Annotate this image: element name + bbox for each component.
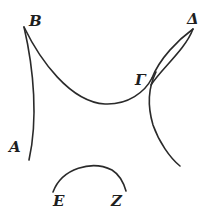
arc-E-Z <box>53 166 126 192</box>
label-Z: Z <box>111 194 122 209</box>
curve-Gamma-Delta-inner <box>151 29 193 85</box>
label-E: E <box>53 194 64 209</box>
label-B: B <box>29 14 42 29</box>
curve-B-A <box>24 27 34 160</box>
label-A: A <box>9 140 21 155</box>
curve-Gamma-down <box>149 72 180 166</box>
curve-B-Gamma <box>24 27 152 104</box>
diagram-canvas <box>0 0 216 218</box>
curve-Gamma-Delta-outer <box>152 29 193 78</box>
label-Delta: Δ <box>187 12 199 27</box>
label-Gamma: Γ <box>135 73 146 88</box>
